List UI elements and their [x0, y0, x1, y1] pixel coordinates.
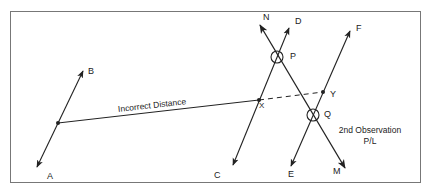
label-x: X	[259, 102, 264, 110]
diagram-canvas: A B C D E F M N P Q X Y Incorrect Distan…	[0, 0, 429, 189]
second-observation-subtitle: P/L	[335, 136, 405, 147]
line-cd	[233, 28, 289, 165]
label-y: Y	[330, 90, 336, 99]
label-m: M	[333, 167, 341, 176]
label-b: B	[88, 67, 94, 76]
line-ab	[37, 71, 83, 167]
label-f: F	[356, 24, 362, 33]
label-a: A	[47, 172, 53, 181]
label-p: P	[290, 52, 296, 61]
second-observation-title: 2nd Observation	[335, 125, 405, 136]
point-y-dot	[321, 90, 325, 94]
diagram-frame	[11, 12, 421, 183]
label-e: E	[288, 170, 294, 179]
label-n: N	[263, 13, 270, 22]
label-d: D	[295, 17, 302, 26]
label-q: Q	[324, 110, 331, 119]
diagram-drawing	[0, 0, 429, 189]
label-c: C	[214, 171, 221, 180]
second-observation-note: 2nd Observation P/L	[335, 125, 405, 148]
dashed-line-xy	[259, 92, 323, 100]
